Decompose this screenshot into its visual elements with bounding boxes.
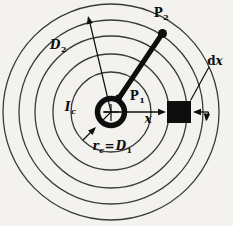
- x-axis-arrow: [104, 109, 166, 115]
- label-p1-base: P: [130, 89, 139, 103]
- dx-width-arrows: [193, 109, 210, 122]
- label-ic-base: I: [65, 100, 71, 114]
- p2-point: [158, 29, 167, 38]
- label-p2-sub: 2: [163, 12, 169, 22]
- dx-down-arrowhead-icon: [203, 113, 210, 122]
- label-x-base: x: [144, 112, 151, 126]
- diagram-canvas: [0, 0, 233, 226]
- label-rc-equals-d1: rc=D1: [92, 140, 131, 152]
- p1-point: [115, 95, 122, 102]
- label-d1-sub: 1: [127, 145, 133, 155]
- label-rc-sub: c: [99, 145, 104, 155]
- label-d2: D2: [50, 39, 66, 51]
- rc-pointer-arrow: [83, 125, 98, 140]
- label-p2-base: P: [154, 6, 163, 20]
- d2-radius-arrow: [85, 15, 111, 112]
- label-rc-base: r: [92, 139, 98, 153]
- label-equals-sign: =: [104, 139, 116, 153]
- label-x: x: [144, 113, 151, 125]
- label-dx: dx: [207, 55, 223, 67]
- label-d2-base: D: [50, 38, 60, 52]
- label-p2: P2: [154, 7, 169, 19]
- label-ic: Ic: [65, 101, 76, 113]
- label-ic-sub: c: [71, 106, 76, 116]
- x-arrowhead-icon: [158, 109, 166, 115]
- physics-field-diagram: P2 D2 P1 Ic x dx rc=D1: [0, 0, 233, 226]
- current-element-square: [167, 101, 191, 123]
- label-d2-sub: 2: [61, 44, 67, 54]
- label-dx-x: x: [216, 54, 223, 68]
- label-p1: P1: [130, 90, 145, 102]
- dx-left-arrowhead-icon: [193, 109, 201, 115]
- rc-radius-line: [102, 112, 112, 122]
- label-d1-base: D: [116, 139, 126, 153]
- label-p1-sub: 1: [139, 95, 145, 105]
